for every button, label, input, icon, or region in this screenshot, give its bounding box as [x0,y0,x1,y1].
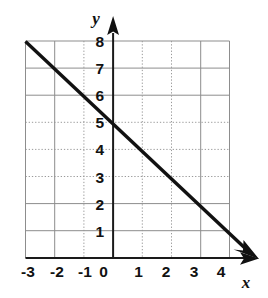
x-tick-labels: -3 -2 -1 0 1 2 3 4 [21,263,226,280]
y-tick-label-4: 4 [95,141,104,158]
x-tick-label-0: 0 [99,263,108,280]
x-tick-label-1: 1 [134,263,143,280]
x-tick-label-3: 3 [190,263,199,280]
y-tick-label-8: 8 [95,33,104,50]
y-tick-label-1: 1 [95,223,104,240]
coordinate-plane-svg: 8 7 6 5 4 3 2 1 -3 -2 -1 0 1 2 3 4 y x [0,0,268,298]
x-tick-label-neg2: -2 [50,263,64,280]
y-tick-label-5: 5 [95,114,104,131]
graph-figure: 8 7 6 5 4 3 2 1 -3 -2 -1 0 1 2 3 4 y x [0,0,268,298]
x-axis-label: x [241,273,251,292]
x-tick-label-4: 4 [217,263,226,280]
y-tick-label-7: 7 [95,60,104,77]
y-tick-label-3: 3 [95,169,104,186]
y-tick-label-2: 2 [95,196,104,213]
line-series-1 [26,42,248,251]
y-tick-label-6: 6 [95,87,104,104]
x-tick-label-neg1: -1 [78,263,92,280]
y-axis-label: y [90,9,100,28]
x-tick-label-2: 2 [162,263,171,280]
up-arrow-icon [107,16,119,35]
x-tick-label-neg3: -3 [21,263,35,280]
y-tick-labels: 8 7 6 5 4 3 2 1 [95,33,104,240]
